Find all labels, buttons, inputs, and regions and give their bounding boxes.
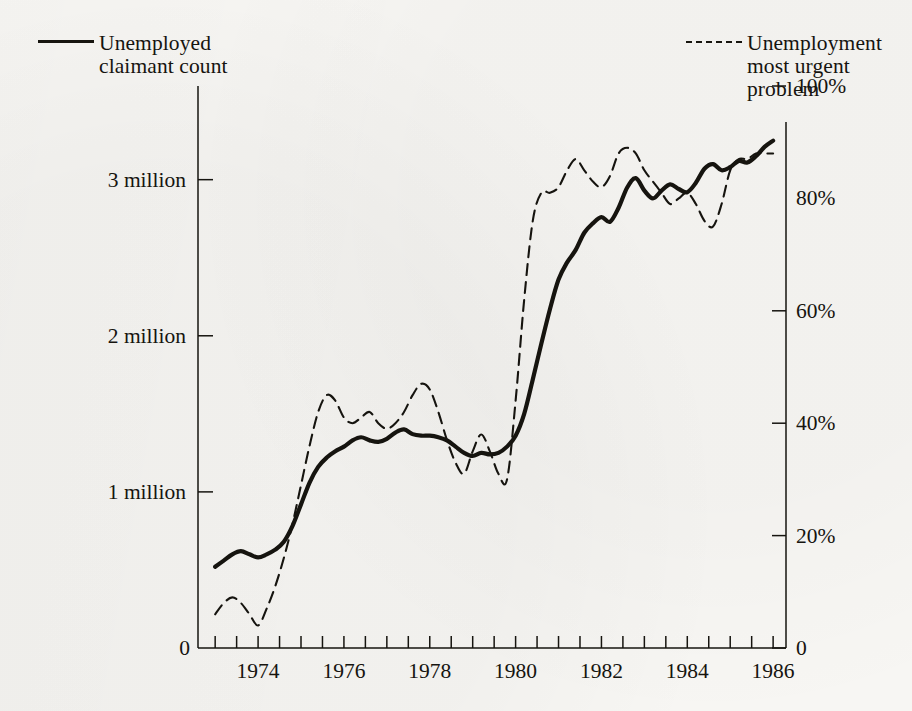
chart-page: Unemployed claimant count Unemployment m… xyxy=(0,0,912,711)
x-tick-label-1980: 1980 xyxy=(494,660,537,682)
y-left-tick-label-3: 3 million xyxy=(108,169,186,191)
y-right-tick-label-40: 40% xyxy=(796,412,835,434)
x-tick-label-1984: 1984 xyxy=(666,660,709,682)
y-right-tick-label-20: 20% xyxy=(796,525,835,547)
y-right-tick-label-0: 0 xyxy=(796,637,807,659)
y-left-tick-label-2: 2 million xyxy=(108,325,186,347)
data-series xyxy=(215,141,773,626)
chart-plot-area: 01 million2 million3 million020%40%60%80… xyxy=(0,0,912,711)
y-right-tick-label-60: 60% xyxy=(796,300,835,322)
x-tick-label-1976: 1976 xyxy=(322,660,365,682)
x-tick-label-1974: 1974 xyxy=(237,660,280,682)
series-line-unemployment-most-urgent-problem xyxy=(215,148,773,626)
series-line-unemployed-claimant-count xyxy=(215,141,773,567)
y-left-tick-label-0: 0 xyxy=(179,637,190,659)
x-tick-label-1982: 1982 xyxy=(580,660,623,682)
y-left-tick-label-1: 1 million xyxy=(108,481,186,503)
axis-lines xyxy=(198,86,786,648)
chart-svg xyxy=(0,0,912,711)
y-right-tick-label-80: 80% xyxy=(796,187,835,209)
axis-ticks xyxy=(198,86,786,648)
x-tick-label-1978: 1978 xyxy=(408,660,451,682)
y-right-tick-label-100: 100% xyxy=(796,75,846,97)
x-tick-label-1986: 1986 xyxy=(752,660,795,682)
